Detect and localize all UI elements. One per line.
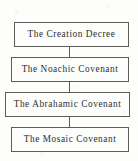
covenant-flowchart: The Creation Decree The Noachic Covenant…: [0, 0, 138, 161]
flowchart-node-creation-decree: The Creation Decree: [14, 22, 129, 47]
flowchart-connector-creation-to-noachic: [69, 47, 70, 57]
flowchart-connector-noachic-to-abrahamic: [69, 82, 70, 92]
flowchart-node-mosaic-covenant: The Mosaic Covenant: [11, 127, 129, 152]
flowchart-node-label: The Creation Decree: [28, 30, 116, 39]
flowchart-node-noachic-covenant: The Noachic Covenant: [11, 57, 129, 82]
flowchart-node-label: The Noachic Covenant: [22, 65, 119, 74]
flowchart-node-label: The Mosaic Covenant: [24, 135, 117, 144]
flowchart-connector-abrahamic-to-mosaic: [69, 117, 70, 127]
flowchart-node-label: The Abrahamic Covenant: [14, 100, 122, 109]
flowchart-node-abrahamic-covenant: The Abrahamic Covenant: [5, 92, 130, 117]
